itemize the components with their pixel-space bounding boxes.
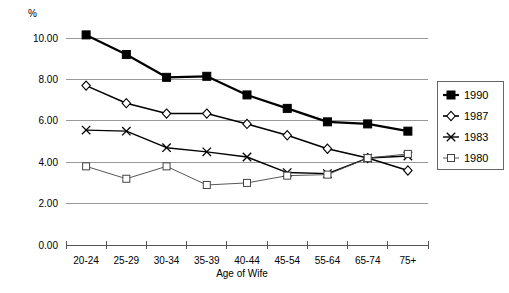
- y-tick-label: 0.00: [39, 240, 59, 251]
- data-point-marker-filled-square: [447, 91, 455, 99]
- x-tick-label: 40-44: [234, 255, 260, 266]
- y-tick-label: 4.00: [39, 157, 59, 168]
- data-point-marker-open-square: [123, 175, 130, 182]
- data-point-marker-filled-square: [323, 118, 331, 126]
- x-axis: [66, 241, 428, 249]
- data-point-marker-filled-square: [404, 127, 412, 135]
- legend-label-1980: 1980: [464, 152, 488, 164]
- data-point-marker-open-diamond: [82, 81, 90, 90]
- data-point-marker-open-diamond: [323, 144, 331, 153]
- series-line-1983: [86, 130, 408, 173]
- series-1983: [86, 130, 408, 173]
- data-point-marker-open-square: [203, 181, 210, 188]
- x-tick-label: 25-29: [114, 255, 140, 266]
- x-tick-label: 35-39: [194, 255, 220, 266]
- x-tick-label: 30-34: [154, 255, 180, 266]
- data-point-marker-open-square: [284, 172, 291, 179]
- data-point-marker-filled-square: [122, 51, 130, 59]
- series-1990: [86, 35, 408, 131]
- y-axis-tick-labels: 10.008.006.004.002.000.00: [33, 33, 58, 251]
- data-point-marker-open-square: [83, 163, 90, 170]
- legend-label-1990: 1990: [464, 89, 488, 101]
- chart-series: [82, 31, 412, 189]
- chart-legend: 1990198719831980: [437, 81, 503, 169]
- data-point-marker-open-square: [404, 150, 411, 157]
- data-point-marker-open-diamond: [203, 109, 211, 118]
- data-point-marker-filled-square: [283, 104, 291, 112]
- data-point-marker-open-square: [448, 155, 455, 162]
- chart-canvas: % 10.008.006.004.002.000.00 20-2425-2930…: [0, 0, 509, 293]
- x-tick-label: 55-64: [315, 255, 341, 266]
- x-axis-tick-labels: 20-2425-2930-3435-3940-4445-5455-6465-74…: [73, 255, 416, 266]
- y-axis-unit-label: %: [28, 8, 37, 19]
- data-point-marker-open-square: [364, 155, 371, 162]
- legend-item-1990[interactable]: 1990: [443, 89, 488, 101]
- data-point-marker-filled-square: [82, 31, 90, 39]
- x-axis-title: Age of Wife: [216, 268, 268, 279]
- x-tick-label: 45-54: [274, 255, 300, 266]
- data-point-marker-open-diamond: [283, 131, 291, 140]
- data-point-marker-open-square: [163, 163, 170, 170]
- data-point-marker-open-square: [324, 171, 331, 178]
- x-tick-label: 75+: [399, 255, 416, 266]
- x-tick-label: 65-74: [355, 255, 381, 266]
- data-point-marker-filled-square: [203, 72, 211, 80]
- line-chart: % 10.008.006.004.002.000.00 20-2425-2930…: [0, 0, 509, 293]
- data-point-marker-open-diamond: [162, 109, 170, 118]
- series-line-1990: [86, 35, 408, 131]
- y-tick-label: 2.00: [39, 198, 59, 209]
- data-point-marker-open-diamond: [404, 166, 412, 175]
- y-tick-label: 10.00: [33, 33, 58, 44]
- y-tick-label: 8.00: [39, 74, 59, 85]
- y-tick-label: 6.00: [39, 115, 59, 126]
- legend-label-1983: 1983: [464, 131, 488, 143]
- data-point-marker-filled-square: [243, 91, 251, 99]
- data-point-marker-filled-square: [364, 120, 372, 128]
- data-point-marker-filled-square: [163, 73, 171, 81]
- legend-label-1987: 1987: [464, 110, 488, 122]
- x-tick-label: 20-24: [73, 255, 99, 266]
- data-point-marker-open-diamond: [122, 99, 130, 108]
- data-point-marker-open-square: [244, 179, 251, 186]
